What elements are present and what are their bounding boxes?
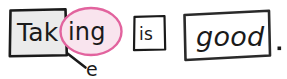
dropped-letter-label: e xyxy=(86,58,98,78)
verb-stem-box[interactable]: Tak xyxy=(10,9,67,56)
dropped-letter-annotation: e xyxy=(68,54,98,79)
predicate-label: good xyxy=(196,21,265,52)
suffix-ellipse[interactable]: ing xyxy=(61,8,122,55)
diagram-canvas: Tak ing e is good xyxy=(0,0,287,78)
copula-label: is xyxy=(139,24,153,44)
predicate-box[interactable]: good xyxy=(185,11,271,60)
handwritten-sentence-diagram: Tak ing e is good xyxy=(0,0,287,78)
leader-line xyxy=(68,54,86,68)
suffix-label: ing xyxy=(68,18,106,46)
period-dot xyxy=(278,47,282,51)
terminal-period xyxy=(278,47,282,51)
copula-box[interactable]: is xyxy=(134,16,165,50)
verb-stem-label: Tak xyxy=(16,18,59,47)
